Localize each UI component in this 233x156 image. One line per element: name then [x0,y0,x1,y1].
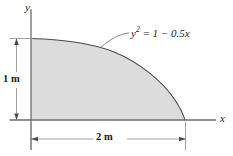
dim-arrow-horizontal-right [179,137,186,141]
dim-arrow-vertical-top [14,39,19,46]
shaded-area-region [31,39,185,121]
dim-arrow-horizontal-left [31,137,38,141]
horizontal-dimension-label: 2 m [96,132,113,143]
curve-equation-label: y2 = 1 − 0.5x [131,28,190,39]
equation-leader-line [101,33,129,47]
x-axis-label: x [220,113,225,124]
dim-arrow-vertical-bottom [14,114,19,121]
figure-graphic [0,0,233,156]
figure-container: y x 1 m 2 m y2 = 1 − 0.5x [0,0,233,156]
y-axis-label: y [25,2,30,13]
vertical-dimension-label: 1 m [3,74,20,85]
equation-rhs: = 1 − 0.5x [140,27,190,39]
